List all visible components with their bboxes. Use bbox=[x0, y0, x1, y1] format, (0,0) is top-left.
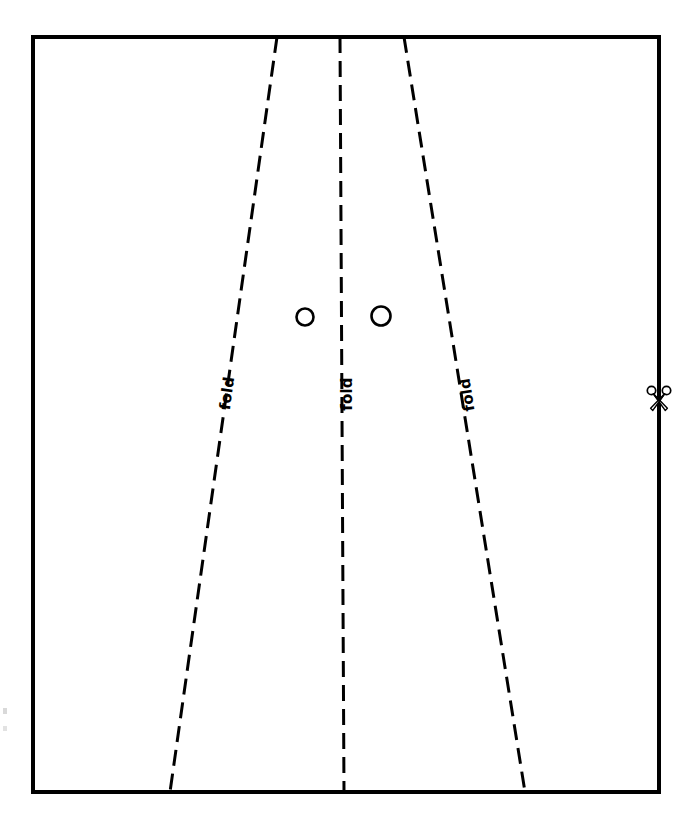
edge-speck-lower bbox=[3, 726, 7, 731]
template-page: fold fold fold bbox=[0, 0, 693, 832]
punch-hole-left bbox=[297, 309, 314, 326]
fold-label-center-group: fold bbox=[338, 377, 356, 411]
edge-speck-upper bbox=[3, 708, 7, 714]
fold-label-right-group: fold bbox=[456, 377, 479, 413]
punch-hole-right bbox=[372, 307, 391, 326]
paper-sheet-outline bbox=[33, 37, 659, 792]
fold-label-right: fold bbox=[456, 377, 479, 413]
edge-artifacts bbox=[3, 708, 7, 731]
fold-line-left bbox=[170, 37, 277, 792]
fold-line-right bbox=[404, 37, 525, 792]
fold-line-center bbox=[340, 37, 344, 792]
fold-label-center: fold bbox=[338, 377, 356, 411]
fold-cut-template-diagram: fold fold fold bbox=[0, 0, 693, 832]
fold-label-left: fold bbox=[216, 375, 238, 411]
fold-label-left-group: fold bbox=[216, 375, 238, 411]
